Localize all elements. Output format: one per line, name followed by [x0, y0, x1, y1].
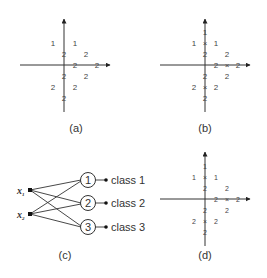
point-label: 2: [214, 218, 218, 225]
panel-d-caption: (d): [198, 249, 211, 261]
figure-canvas: 11222222222 (a) 11×1222×2222×22 (b) x1 x…: [0, 0, 267, 278]
output-dot-1: [104, 178, 108, 182]
point-label: 1: [192, 39, 197, 48]
point-label: 2: [236, 61, 241, 70]
point-label: 2: [203, 229, 207, 236]
point-label: 2: [84, 50, 89, 59]
point-label: 1: [214, 39, 219, 48]
point-label: 1: [203, 28, 208, 37]
input-label-x1: x1: [16, 185, 25, 197]
point-label: 1: [214, 174, 218, 181]
point-label: 1: [51, 39, 56, 48]
point-label: 2: [203, 94, 208, 103]
cross-marker: ×: [225, 61, 230, 70]
point-label: 2: [236, 196, 240, 203]
output-label-class-1: class 1: [111, 174, 145, 186]
point-label: 2: [62, 94, 67, 103]
panel-d: 11×1222×2222×22 (d): [160, 152, 250, 261]
cross-marker: ×: [225, 196, 229, 203]
panel-b: 11×1222×2222×22 (b): [160, 19, 250, 134]
hidden-node-1-label: 1: [85, 174, 91, 186]
point-label: 2: [95, 61, 100, 70]
point-label: 2: [214, 83, 219, 92]
point-label: 2: [84, 72, 89, 81]
output-dot-2: [104, 201, 108, 205]
point-label: 2: [192, 83, 197, 92]
point-label: 2: [203, 50, 208, 59]
point-label: 2: [73, 61, 78, 70]
output-label-class-3: class 3: [111, 221, 145, 233]
point-label: 1: [192, 174, 196, 181]
point-label: 2: [225, 185, 229, 192]
cross-marker: ×: [203, 39, 208, 48]
cross-marker: ×: [203, 83, 208, 92]
point-label: 2: [225, 207, 229, 214]
cross-marker: ×: [203, 174, 207, 181]
input-node-x2: [28, 212, 32, 216]
panel-b-caption: (b): [198, 122, 211, 134]
panel-c-caption: (c): [59, 249, 72, 261]
point-label: 1: [73, 39, 78, 48]
output-label-class-2: class 2: [111, 197, 145, 209]
panel-c: x1 x2 1 2 3 class 1 class 2 class 3 (c): [16, 173, 145, 262]
cross-marker: ×: [203, 218, 207, 225]
point-label: 2: [214, 196, 218, 203]
point-label: 2: [203, 72, 208, 81]
point-label: 2: [192, 218, 196, 225]
panel-a-caption: (a): [69, 122, 82, 134]
point-label: 2: [62, 72, 67, 81]
point-label: 2: [225, 72, 230, 81]
point-label: 2: [73, 83, 78, 92]
point-label: 2: [225, 50, 230, 59]
point-label: 1: [203, 163, 207, 170]
panel-a: 11222222222 (a): [20, 19, 110, 134]
input-node-x1: [28, 188, 32, 192]
hidden-node-2-label: 2: [85, 197, 91, 209]
point-label: 2: [203, 185, 207, 192]
point-label: 2: [203, 207, 207, 214]
point-label: 2: [62, 50, 67, 59]
hidden-node-3-label: 3: [85, 221, 91, 233]
point-label: 2: [214, 61, 219, 70]
input-label-x2: x2: [16, 209, 25, 221]
output-dot-3: [104, 225, 108, 229]
panel-a-points: 11222222222: [51, 39, 100, 103]
point-label: 2: [51, 83, 56, 92]
